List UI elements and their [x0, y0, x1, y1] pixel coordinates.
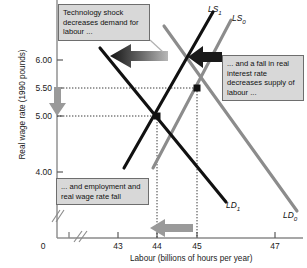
- x-tick-label-44: 44: [147, 241, 167, 251]
- y-tick-label-400: 4.00: [16, 167, 52, 177]
- y-tick-label-600: 6.00: [16, 55, 52, 65]
- x-tick-label-0: 0: [33, 241, 53, 251]
- x-tick-label-45: 45: [187, 241, 207, 251]
- y-tick-label-550: 5.50: [16, 83, 52, 93]
- employment-fall-callout: ... and employment and real wage rate fa…: [56, 178, 149, 205]
- chart-canvas: [0, 0, 307, 268]
- callout-connector: [150, 40, 163, 52]
- curve-label-ls0-main: LS: [232, 13, 242, 23]
- curve-label-ld0-main: LD: [283, 210, 294, 220]
- x-tick-label-47: 47: [265, 241, 285, 251]
- equilibrium-marker-original: [194, 85, 201, 92]
- curve-label-ld1-sub: 1: [237, 205, 240, 212]
- curve-label-ld1-main: LD: [226, 200, 237, 210]
- y-tick-label-500: 5.00: [16, 111, 52, 121]
- x-tick-label-43: 43: [108, 241, 128, 251]
- technology-shock-callout: Technology shock decreases demand for la…: [58, 4, 150, 41]
- curve-label-ld0: LD0: [283, 210, 297, 222]
- curve-label-ls1-main: LS: [208, 4, 218, 14]
- real-interest-rate-callout: ... and a fall in real interest rate dec…: [222, 55, 304, 101]
- x-axis-title: Labour (billions of hours per year): [130, 254, 252, 263]
- curve-label-ls1-sub: 1: [218, 9, 221, 16]
- curve-label-ls0-sub: 0: [242, 18, 245, 25]
- curve-label-ls1: LS1: [208, 4, 222, 16]
- curve-ld0: [164, 26, 297, 211]
- curve-label-ld1: LD1: [226, 200, 240, 212]
- equilibrium-marker-new: [154, 113, 161, 120]
- labour-market-chart: Real wage rate (1990 pounds) Labour (bil…: [0, 0, 307, 268]
- curve-label-ls0: LS0: [232, 13, 246, 25]
- demand-shift-arrow: [110, 44, 168, 68]
- curve-label-ld0-sub: 0: [294, 215, 297, 222]
